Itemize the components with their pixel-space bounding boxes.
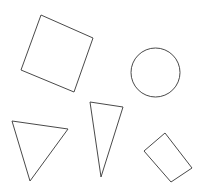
wide-triangle-shape	[12, 121, 68, 181]
rotated-square-shape	[21, 15, 93, 92]
rotated-rectangle-shape	[144, 133, 192, 182]
narrow-triangle-shape	[90, 102, 123, 177]
circle-shape	[131, 48, 180, 97]
shape-canvas	[0, 0, 203, 190]
shapes-drawing	[0, 0, 203, 190]
